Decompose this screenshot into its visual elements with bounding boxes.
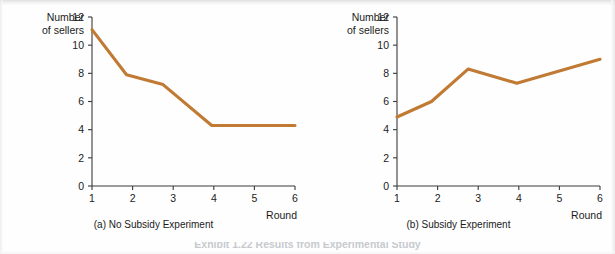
panel-caption-b: (b) Subsidy Experiment	[305, 219, 612, 230]
y-tick-label: 6	[383, 95, 389, 107]
figure-canvas: Number of sellers 024681012123456Round (…	[0, 0, 615, 254]
x-tick-label: 4	[211, 192, 217, 204]
y-tick-label: 12	[72, 11, 84, 23]
x-tick-label: 5	[556, 192, 562, 204]
x-tick-label: 4	[516, 192, 522, 204]
y-tick-label: 2	[78, 152, 84, 164]
y-tick-label: 4	[383, 123, 389, 135]
x-tick-label: 2	[435, 192, 441, 204]
chart-panel-b: Number of sellers 024681012123456Round (…	[305, 0, 612, 254]
x-tick-label: 3	[170, 192, 176, 204]
x-tick-label: 3	[475, 192, 481, 204]
y-tick-label: 0	[383, 180, 389, 192]
y-tick-label: 4	[78, 123, 84, 135]
panel-caption-a: (a) No Subsidy Experiment	[0, 219, 307, 230]
y-tick-label: 6	[78, 95, 84, 107]
y-tick-label: 2	[383, 152, 389, 164]
data-line-b	[397, 59, 600, 117]
x-tick-label: 1	[394, 192, 400, 204]
x-tick-label: 6	[292, 192, 298, 204]
y-tick-label: 8	[78, 67, 84, 79]
x-tick-label: 1	[89, 192, 95, 204]
y-tick-label: 10	[72, 39, 84, 51]
chart-panel-a: Number of sellers 024681012123456Round (…	[0, 0, 307, 254]
x-tick-label: 5	[251, 192, 257, 204]
plot-area-b: 024681012123456Round	[305, 0, 612, 254]
y-tick-label: 10	[377, 39, 389, 51]
data-line-a	[92, 30, 295, 126]
plot-area-a: 024681012123456Round	[0, 0, 307, 254]
figure-caption-clip: Exhibit 1.22 Results from Experimental S…	[0, 242, 615, 254]
y-tick-label: 12	[377, 11, 389, 23]
x-tick-label: 2	[130, 192, 136, 204]
x-tick-label: 6	[597, 192, 603, 204]
y-tick-label: 0	[78, 180, 84, 192]
y-tick-label: 8	[383, 67, 389, 79]
figure-caption: Exhibit 1.22 Results from Experimental S…	[0, 242, 615, 250]
